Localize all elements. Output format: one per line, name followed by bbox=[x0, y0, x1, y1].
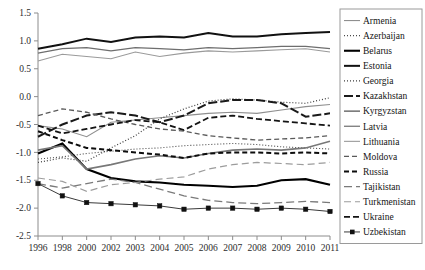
x-tick-label: 2007 bbox=[223, 243, 242, 253]
y-tick-label: -2.0 bbox=[16, 203, 31, 213]
legend-item-label: Kazakhstan bbox=[363, 91, 408, 101]
legend-item-label: Lithuania bbox=[363, 137, 400, 147]
legend-item-label: Kyrgyzstan bbox=[363, 106, 407, 116]
legend-item-label: Georgia bbox=[363, 76, 394, 86]
legend-swatch-marker bbox=[350, 230, 355, 235]
x-tick-label: 2004 bbox=[150, 243, 169, 253]
series-marker-uzbekistan bbox=[230, 206, 234, 210]
legend-item-label: Moldova bbox=[363, 152, 398, 162]
x-tick-label: 2003 bbox=[126, 243, 145, 253]
series-marker-uzbekistan bbox=[255, 207, 259, 211]
series-line-lithuania bbox=[38, 49, 330, 61]
series-marker-uzbekistan bbox=[182, 207, 186, 211]
y-tick-label: 1.5 bbox=[19, 8, 31, 18]
series-line-kyrgyzstan bbox=[38, 141, 330, 169]
chart-series-group bbox=[36, 32, 332, 214]
y-axis-ticks: -2.5-2.0-1.5-1.0-0.50.00.51.01.5 bbox=[16, 8, 38, 241]
y-tick-label: -1.0 bbox=[16, 148, 31, 158]
series-marker-uzbekistan bbox=[303, 207, 307, 211]
legend-item-label: Armenia bbox=[363, 16, 397, 26]
x-tick-label: 2011 bbox=[321, 243, 340, 253]
series-marker-uzbekistan bbox=[84, 200, 88, 204]
series-line-armenia bbox=[38, 104, 330, 136]
series-line-ukraine bbox=[38, 116, 330, 134]
y-tick-label: 0.5 bbox=[19, 64, 31, 74]
x-tick-label: 2006 bbox=[199, 243, 218, 253]
x-tick-label: 2009 bbox=[272, 243, 291, 253]
series-line-turkmenistan bbox=[38, 162, 330, 191]
x-tick-label: 2000 bbox=[77, 243, 96, 253]
series-marker-uzbekistan bbox=[279, 206, 283, 210]
x-tick-label: 2005 bbox=[175, 243, 194, 253]
y-tick-label: 1.0 bbox=[19, 36, 31, 46]
legend-item-label: Turkmenistan bbox=[363, 197, 416, 207]
legend-item-label: Uzbekistan bbox=[363, 227, 406, 237]
series-marker-uzbekistan bbox=[157, 204, 161, 208]
legend-item-label: Latvia bbox=[363, 122, 388, 132]
y-tick-label: -2.5 bbox=[16, 231, 31, 241]
series-marker-uzbekistan bbox=[109, 201, 113, 205]
series-line-azerbaijan bbox=[38, 143, 330, 159]
y-tick-label: -0.5 bbox=[16, 120, 31, 130]
line-chart: -2.5-2.0-1.5-1.0-0.50.00.51.01.519961998… bbox=[0, 0, 425, 270]
legend-item-label: Tajikistan bbox=[363, 182, 401, 192]
x-tick-label: 2002 bbox=[102, 243, 121, 253]
series-marker-uzbekistan bbox=[60, 194, 64, 198]
legend-item-label: Estonia bbox=[363, 61, 392, 71]
y-tick-label: 0.0 bbox=[19, 92, 31, 102]
chart-legend: ArmeniaAzerbaijanBelarusEstoniaGeorgiaKa… bbox=[340, 9, 422, 244]
series-marker-uzbekistan bbox=[133, 203, 137, 207]
legend-item-label: Azerbaijan bbox=[363, 31, 405, 41]
x-axis-ticks: 1996199820002002200320042005200620072008… bbox=[29, 236, 340, 253]
series-marker-uzbekistan bbox=[206, 206, 210, 210]
series-line-kazakhstan bbox=[38, 100, 330, 137]
series-line-tajikistan bbox=[38, 179, 330, 204]
chart-canvas: -2.5-2.0-1.5-1.0-0.50.00.51.01.519961998… bbox=[0, 0, 425, 270]
x-tick-label: 1996 bbox=[29, 243, 48, 253]
series-marker-uzbekistan bbox=[328, 209, 332, 213]
x-tick-label: 2010 bbox=[296, 243, 315, 253]
x-tick-label: 2008 bbox=[248, 243, 267, 253]
legend-item-label: Belarus bbox=[363, 46, 392, 56]
legend-item-label: Russia bbox=[363, 167, 389, 177]
series-marker-uzbekistan bbox=[36, 181, 40, 185]
legend-item-label: Ukraine bbox=[363, 212, 394, 222]
x-tick-label: 1998 bbox=[53, 243, 72, 253]
y-tick-label: -1.5 bbox=[16, 175, 31, 185]
